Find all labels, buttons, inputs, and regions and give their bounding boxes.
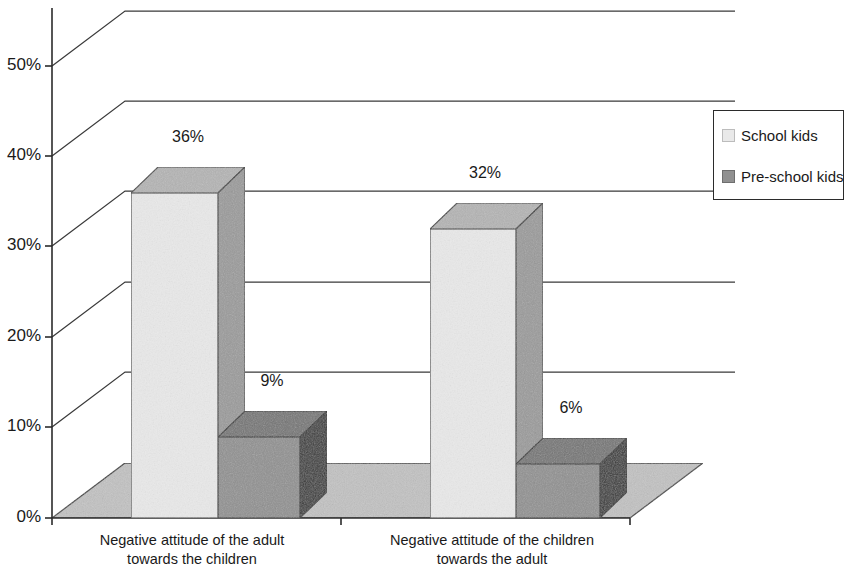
legend: School kids Pre-school kids — [713, 110, 844, 200]
bar-value-label-2: 9% — [232, 372, 312, 390]
category-label-1-line-2: towards the children — [62, 550, 322, 567]
chart-canvas — [0, 0, 845, 567]
legend-item-school-kids[interactable]: School kids — [722, 127, 818, 144]
y-axis-label-0: 0% — [0, 507, 41, 527]
bar-preschool-kids-category-2[interactable] — [516, 438, 627, 518]
y-axis-label-20: 20% — [0, 326, 41, 346]
category-label-2-line-1: Negative attitude of the children — [358, 531, 626, 550]
category-label-1-line-1: Negative attitude of the adult — [62, 531, 322, 550]
gridline-50 — [52, 11, 735, 66]
x-axis — [52, 518, 630, 525]
y-axis-label-10: 10% — [0, 416, 41, 436]
legend-item-preschool-kids[interactable]: Pre-school kids — [722, 168, 844, 185]
bar-front-face — [430, 229, 516, 518]
category-label-1: Negative attitude of the adult towards t… — [62, 531, 322, 567]
bar-preschool-kids-category-1[interactable] — [218, 411, 327, 518]
y-axis-label-40: 40% — [0, 145, 41, 165]
category-label-2: Negative attitude of the children toward… — [358, 531, 626, 567]
bar-value-label-4: 6% — [531, 399, 611, 417]
bar-front-face — [218, 437, 300, 518]
bar-front-face — [131, 193, 218, 518]
bar-chart: 50% 40% 30% 20% 10% 0% 36% 9% 32% 6% Neg… — [0, 0, 845, 567]
category-label-2-line-2: towards the adult — [358, 550, 626, 567]
bar-value-label-3: 32% — [445, 164, 525, 182]
bar-value-label-1: 36% — [148, 128, 228, 146]
legend-label-school-kids: School kids — [741, 127, 818, 144]
legend-swatch-school-kids — [722, 129, 735, 142]
y-axis — [45, 8, 52, 518]
legend-swatch-preschool-kids — [722, 170, 735, 183]
legend-label-preschool-kids: Pre-school kids — [741, 168, 844, 185]
y-axis-label-50: 50% — [0, 55, 41, 75]
y-axis-label-30: 30% — [0, 235, 41, 255]
bar-front-face — [516, 464, 600, 518]
